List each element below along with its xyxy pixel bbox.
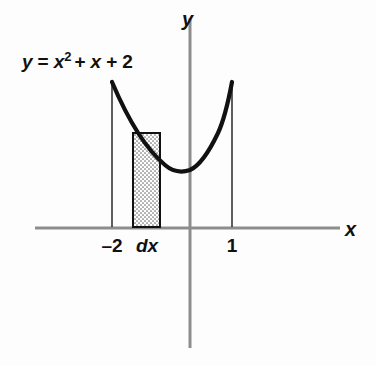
- equation-label: y=x2+x+2: [21, 49, 133, 72]
- x-tick-label-left: –2: [101, 235, 122, 256]
- equation-term2: x: [90, 51, 103, 72]
- equation-equals: =: [38, 51, 49, 72]
- y-axis-label: y: [181, 8, 194, 30]
- equation-plus1: +: [75, 51, 86, 72]
- x-tick-label-right: 1: [227, 235, 238, 256]
- parabola-curve: [112, 82, 232, 172]
- equation-plus2: +: [106, 51, 117, 72]
- equation-term3: 2: [122, 51, 133, 72]
- integral-area-figure: y=x2+x+2 x y –2 1 dx: [0, 0, 376, 366]
- equation-term1-exponent: 2: [64, 49, 71, 64]
- x-axis-label: x: [344, 218, 357, 240]
- equation-lhs: y: [21, 51, 34, 72]
- dx-label: dx: [136, 235, 160, 256]
